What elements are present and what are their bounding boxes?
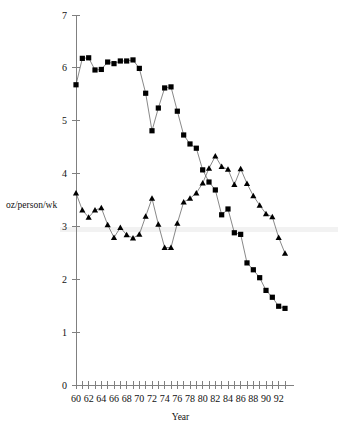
y-tick-label: 6 — [62, 62, 67, 73]
square-marker — [194, 146, 199, 151]
square-marker — [244, 260, 249, 265]
square-marker — [270, 295, 275, 300]
y-tick-label: 4 — [62, 168, 67, 179]
square-marker — [86, 55, 91, 60]
square-marker — [168, 84, 173, 89]
x-tick-label: 92 — [274, 393, 284, 404]
y-tick-label: 2 — [62, 274, 67, 285]
x-tick-label: 82 — [210, 393, 220, 404]
y-tick-label: 5 — [62, 115, 67, 126]
square-marker — [105, 59, 110, 64]
x-tick-label: 72 — [147, 393, 157, 404]
square-marker — [80, 56, 85, 61]
chart-container: 0123456760626466687072747678808284868890… — [0, 0, 340, 434]
square-marker — [206, 179, 211, 184]
x-tick-label: 90 — [261, 393, 271, 404]
line-chart: 0123456760626466687072747678808284868890… — [0, 0, 340, 434]
square-marker — [251, 267, 256, 272]
square-marker — [175, 109, 180, 114]
square-marker — [99, 67, 104, 72]
square-marker — [92, 67, 97, 72]
x-tick-label: 86 — [236, 393, 246, 404]
square-marker — [232, 230, 237, 235]
y-tick-label: 1 — [62, 327, 67, 338]
x-tick-label: 74 — [160, 393, 170, 404]
square-marker — [181, 132, 186, 137]
square-marker — [111, 61, 116, 66]
x-tick-label: 60 — [71, 393, 81, 404]
background-band — [60, 227, 338, 232]
x-tick-label: 84 — [223, 393, 233, 404]
x-tick-label: 76 — [172, 393, 182, 404]
square-marker — [124, 58, 129, 63]
x-tick-label: 88 — [248, 393, 258, 404]
x-tick-label: 62 — [84, 393, 94, 404]
y-tick-label: 7 — [62, 10, 67, 21]
x-tick-label: 64 — [96, 393, 106, 404]
square-marker — [137, 66, 142, 71]
square-marker — [257, 275, 262, 280]
square-marker — [213, 187, 218, 192]
square-marker — [162, 85, 167, 90]
square-marker — [73, 82, 78, 87]
square-marker — [276, 304, 281, 309]
chart-background — [0, 0, 340, 434]
square-marker — [149, 128, 154, 133]
x-tick-label: 78 — [185, 393, 195, 404]
square-marker — [130, 57, 135, 62]
square-marker — [200, 167, 205, 172]
square-marker — [225, 206, 230, 211]
x-tick-label: 80 — [198, 393, 208, 404]
square-marker — [263, 288, 268, 293]
square-marker — [187, 141, 192, 146]
square-marker — [156, 105, 161, 110]
y-tick-label: 0 — [62, 380, 67, 391]
x-tick-label: 70 — [134, 393, 144, 404]
square-marker — [143, 91, 148, 96]
y-axis-title: oz/person/wk — [6, 200, 57, 210]
square-marker — [219, 212, 224, 217]
square-marker — [118, 58, 123, 63]
x-axis-title: Year — [172, 412, 190, 422]
y-tick-label: 3 — [62, 221, 67, 232]
square-marker — [282, 306, 287, 311]
square-marker — [238, 232, 243, 237]
x-tick-label: 68 — [122, 393, 132, 404]
x-tick-label: 66 — [109, 393, 119, 404]
